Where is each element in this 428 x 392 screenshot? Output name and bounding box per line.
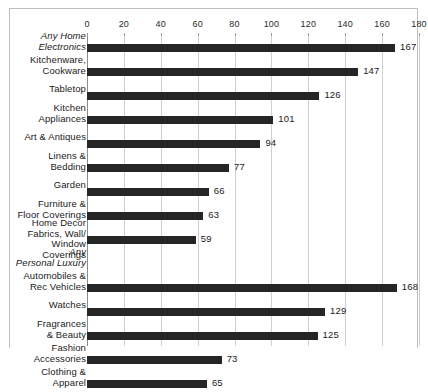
bar xyxy=(87,44,395,52)
bar-value-label: 66 xyxy=(214,185,225,196)
bar xyxy=(87,284,397,292)
bar-value-label: 65 xyxy=(212,377,223,388)
bar-cell: 129 xyxy=(87,300,419,324)
x-tick-label-20: 20 xyxy=(119,19,129,29)
x-tick-label-40: 40 xyxy=(156,19,166,29)
category-label: Linens & Bedding xyxy=(48,151,86,172)
category-label: Art & Antiques xyxy=(24,132,86,143)
category-label: Any Home Electronics xyxy=(38,31,86,52)
clipped-header-text xyxy=(8,0,308,2)
bar-value-label: 63 xyxy=(208,209,219,220)
bar xyxy=(87,356,222,364)
bar xyxy=(87,308,325,316)
category-label: Clothing & Apparel xyxy=(41,367,86,388)
bar-cell: 168 xyxy=(87,276,419,300)
bar-value-label: 59 xyxy=(201,233,212,244)
chart-frame: 020406080100120140160180 Any Home Electr… xyxy=(9,8,418,348)
gridline-180 xyxy=(419,36,420,346)
category-label: Kitchen Appliances xyxy=(39,103,86,124)
category-label: Fragrances & Beauty xyxy=(37,319,86,340)
x-tick-label-0: 0 xyxy=(84,19,89,29)
x-tick-label-60: 60 xyxy=(192,19,202,29)
bar xyxy=(87,188,209,196)
bar-cell: 59 xyxy=(87,228,419,252)
table-row: Kitchenware, Cookware147 xyxy=(10,60,419,84)
bar-value-label: 168 xyxy=(402,281,418,292)
bar-value-label: 77 xyxy=(234,161,245,172)
bar-cell: 73 xyxy=(87,348,419,372)
bar xyxy=(87,332,318,340)
bar xyxy=(87,68,358,76)
bar-value-label: 147 xyxy=(363,65,379,76)
bar-cell: 147 xyxy=(87,60,419,84)
category-label: Tabletop xyxy=(49,84,86,95)
bar xyxy=(87,92,319,100)
bar-rows: Any Home Electronics167Kitchenware, Cook… xyxy=(10,36,419,392)
bar-cell: 167 xyxy=(87,36,419,60)
x-tick-label-160: 160 xyxy=(374,19,390,29)
bar-value-label: 73 xyxy=(227,353,238,364)
bar-value-label: 167 xyxy=(400,41,416,52)
bar-cell: 63 xyxy=(87,204,419,228)
bar-value-label: 129 xyxy=(330,305,346,316)
category-label: Fashion Accessories xyxy=(34,343,86,364)
x-tick-label-180: 180 xyxy=(411,19,427,29)
bar-cell: 101 xyxy=(87,108,419,132)
x-tick-label-140: 140 xyxy=(337,19,353,29)
bar-value-label: 94 xyxy=(265,137,276,148)
category-label: Garden xyxy=(54,180,86,191)
bar-cell: 66 xyxy=(87,180,419,204)
bar xyxy=(87,164,229,172)
bar-cell: 126 xyxy=(87,84,419,108)
bar-cell: 125 xyxy=(87,324,419,348)
bar-cell: 65 xyxy=(87,372,419,392)
category-label: Kitchenware, Cookware xyxy=(30,55,86,76)
bar xyxy=(87,140,260,148)
category-label: Automobiles & Rec Vehicles xyxy=(23,271,86,292)
category-label: Any Personal Luxury xyxy=(16,247,86,268)
x-tick-label-80: 80 xyxy=(229,19,239,29)
table-row: Clothing & Apparel65 xyxy=(10,372,419,392)
category-label: Watches xyxy=(49,300,86,311)
bar xyxy=(87,212,203,220)
x-tick-label-120: 120 xyxy=(301,19,317,29)
bar-value-label: 125 xyxy=(323,329,339,340)
table-row: Kitchen Appliances101 xyxy=(10,108,419,132)
bar xyxy=(87,116,273,124)
bar xyxy=(87,380,207,388)
bar-cell: 77 xyxy=(87,156,419,180)
bar-cell: 94 xyxy=(87,132,419,156)
bar-cell xyxy=(87,252,419,276)
bar-value-label: 101 xyxy=(278,113,294,124)
x-axis: 020406080100120140160180 xyxy=(87,19,419,33)
table-row: Linens & Bedding77 xyxy=(10,156,419,180)
bar xyxy=(87,236,196,244)
x-tick-label-100: 100 xyxy=(264,19,280,29)
bar-value-label: 126 xyxy=(324,89,340,100)
table-row: Automobiles & Rec Vehicles168 xyxy=(10,276,419,300)
